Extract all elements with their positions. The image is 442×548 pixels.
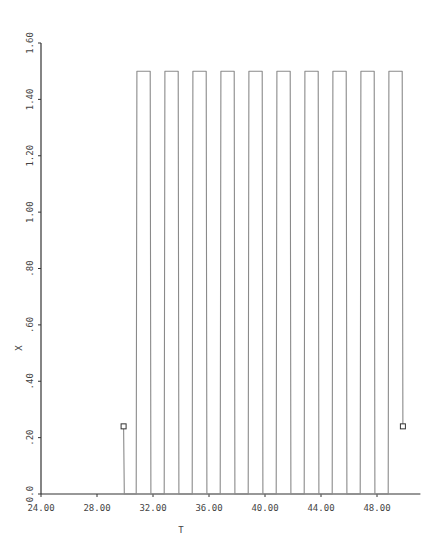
x-tick-label: 28.00	[83, 503, 110, 513]
x-axis-title: T	[178, 525, 184, 535]
square-marker-icon	[400, 424, 405, 429]
axes: 24.0028.0032.0036.0040.0044.0048.000.0.2…	[14, 32, 420, 535]
y-tick-label: 0.0	[25, 486, 35, 502]
y-tick-label: .40	[25, 373, 35, 389]
chart-canvas: 24.0028.0032.0036.0040.0044.0048.000.0.2…	[0, 0, 442, 548]
y-tick-label: .20	[25, 429, 35, 445]
series-line	[124, 71, 403, 494]
y-tick-label: 1.40	[25, 89, 35, 111]
y-tick-label: 1.00	[25, 201, 35, 223]
x-tick-label: 40.00	[251, 503, 278, 513]
x-tick-label: 48.00	[363, 503, 390, 513]
y-axis-title: X	[14, 345, 24, 351]
x-tick-label: 36.00	[195, 503, 222, 513]
square-marker-icon	[121, 424, 126, 429]
x-tick-label: 44.00	[307, 503, 334, 513]
plot-area	[121, 71, 405, 494]
y-tick-label: 1.20	[25, 145, 35, 167]
y-tick-label: .60	[25, 317, 35, 333]
y-tick-label: .80	[25, 260, 35, 276]
x-tick-label: 32.00	[139, 503, 166, 513]
y-tick-label: 1.60	[25, 32, 35, 54]
x-tick-label: 24.00	[27, 503, 54, 513]
